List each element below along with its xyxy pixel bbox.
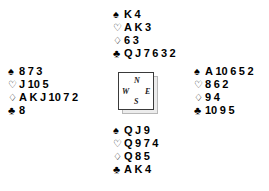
compass-label-west: W bbox=[122, 88, 129, 96]
hand-north-clubs-row: ♣ QJ7632 bbox=[113, 47, 176, 60]
hand-west-clubs-row: ♣ 8 bbox=[8, 104, 78, 117]
hand-south-clubs-row: ♣ AK4 bbox=[113, 163, 158, 176]
hand-west-spades-cards: 873 bbox=[19, 65, 42, 78]
heart-icon: ♡ bbox=[113, 137, 124, 150]
hand-west: ♠ 873 ♡ J105 ♢ AKJ1072 ♣ 8 bbox=[8, 65, 78, 117]
heart-icon: ♡ bbox=[194, 78, 205, 91]
hand-north-spades-cards: K4 bbox=[124, 8, 141, 21]
hand-south-hearts-cards: Q974 bbox=[124, 137, 158, 150]
hand-north: ♠ K4 ♡ AK3 ♢ 63 ♣ QJ7632 bbox=[113, 8, 176, 60]
club-icon: ♣ bbox=[194, 104, 205, 117]
hand-east-diamonds-row: ♢ 94 bbox=[194, 91, 254, 104]
diamond-icon: ♢ bbox=[113, 34, 124, 47]
hand-east-diamonds-cards: 94 bbox=[205, 91, 220, 104]
hand-west-diamonds-row: ♢ AKJ1072 bbox=[8, 91, 78, 104]
hand-north-hearts-row: ♡ AK3 bbox=[113, 21, 176, 34]
hand-east-hearts-row: ♡ 862 bbox=[194, 78, 254, 91]
spade-icon: ♠ bbox=[194, 65, 205, 78]
hand-south-spades-row: ♠ QJ9 bbox=[113, 124, 158, 137]
hand-north-clubs-cards: QJ7632 bbox=[124, 47, 176, 60]
bridge-deal-diagram: ♠ K4 ♡ AK3 ♢ 63 ♣ QJ7632 ♠ 873 ♡ J105 ♢ … bbox=[0, 0, 269, 191]
hand-south-diamonds-row: ♢ Q85 bbox=[113, 150, 158, 163]
club-icon: ♣ bbox=[8, 104, 19, 117]
compass-label-south: S bbox=[134, 98, 138, 106]
club-icon: ♣ bbox=[113, 163, 124, 176]
hand-west-spades-row: ♠ 873 bbox=[8, 65, 78, 78]
heart-icon: ♡ bbox=[113, 21, 124, 34]
hand-east-hearts-cards: 862 bbox=[205, 78, 228, 91]
hand-south-hearts-row: ♡ Q974 bbox=[113, 137, 158, 150]
hand-west-hearts-row: ♡ J105 bbox=[8, 78, 78, 91]
hand-east: ♠ A10652 ♡ 862 ♢ 94 ♣ 1095 bbox=[194, 65, 254, 117]
compass-label-east: E bbox=[145, 88, 150, 96]
hand-west-clubs-cards: 8 bbox=[19, 104, 25, 117]
hand-west-hearts-cards: J105 bbox=[19, 78, 49, 91]
hand-south-clubs-cards: AK4 bbox=[124, 163, 151, 176]
hand-east-spades-cards: A10652 bbox=[205, 65, 254, 78]
hand-north-diamonds-cards: 63 bbox=[124, 34, 139, 47]
hand-south: ♠ QJ9 ♡ Q974 ♢ Q85 ♣ AK4 bbox=[113, 124, 158, 176]
heart-icon: ♡ bbox=[8, 78, 19, 91]
club-icon: ♣ bbox=[113, 47, 124, 60]
hand-north-diamonds-row: ♢ 63 bbox=[113, 34, 176, 47]
hand-west-diamonds-cards: AKJ1072 bbox=[19, 91, 78, 104]
hand-north-hearts-cards: AK3 bbox=[124, 21, 151, 34]
hand-east-spades-row: ♠ A10652 bbox=[194, 65, 254, 78]
hand-east-clubs-cards: 1095 bbox=[205, 104, 235, 117]
spade-icon: ♠ bbox=[113, 8, 124, 21]
compass-label-north: N bbox=[134, 77, 140, 85]
hand-east-clubs-row: ♣ 1095 bbox=[194, 104, 254, 117]
diamond-icon: ♢ bbox=[194, 91, 205, 104]
diamond-icon: ♢ bbox=[113, 150, 124, 163]
diamond-icon: ♢ bbox=[8, 91, 19, 104]
spade-icon: ♠ bbox=[113, 124, 124, 137]
hand-south-diamonds-cards: Q85 bbox=[124, 150, 150, 163]
hand-north-spades-row: ♠ K4 bbox=[113, 8, 176, 21]
compass-box-frame: N W E S bbox=[118, 72, 154, 110]
compass-box: N W E S bbox=[118, 72, 160, 116]
spade-icon: ♠ bbox=[8, 65, 19, 78]
hand-south-spades-cards: QJ9 bbox=[124, 124, 150, 137]
